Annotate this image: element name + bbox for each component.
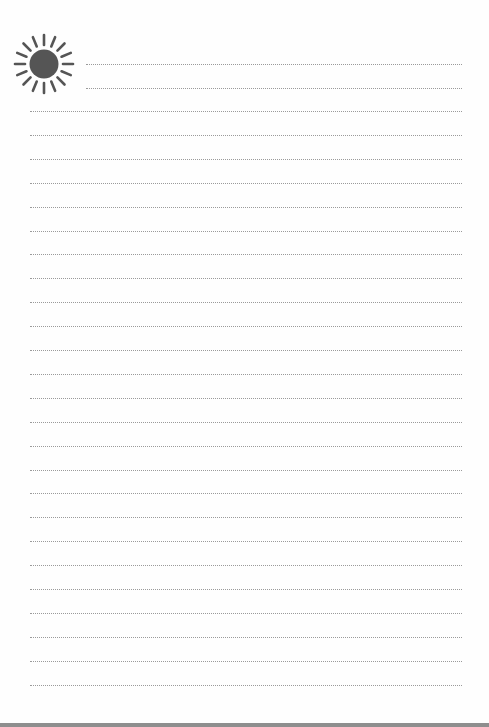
sun-ray: [57, 77, 64, 84]
ruled-line: [30, 207, 462, 208]
ruled-line: [30, 517, 462, 518]
page-bottom-edge: [0, 723, 489, 727]
ruled-line: [86, 88, 462, 89]
ruled-line: [30, 302, 462, 303]
ruled-line: [30, 613, 462, 614]
sun-ray: [17, 53, 26, 57]
ruled-line: [30, 565, 462, 566]
ruled-line: [30, 637, 462, 638]
sun-ray: [57, 43, 64, 50]
ruled-line: [30, 398, 462, 399]
ruled-line: [30, 422, 462, 423]
ruled-line: [30, 231, 462, 232]
ruled-line: [30, 470, 462, 471]
sun-ray: [62, 53, 71, 57]
ruled-line: [30, 661, 462, 662]
sun-icon: [13, 33, 75, 95]
sun-ray: [51, 37, 55, 46]
ruled-line: [30, 254, 462, 255]
ruled-line: [30, 350, 462, 351]
ruled-line: [30, 374, 462, 375]
ruled-line: [86, 64, 462, 65]
ruled-line: [30, 111, 462, 112]
ruled-line: [30, 446, 462, 447]
ruled-line: [30, 135, 462, 136]
ruled-line: [30, 493, 462, 494]
sun-ray: [23, 77, 30, 84]
sun-ray: [33, 82, 37, 91]
ruled-line: [30, 278, 462, 279]
sun-ray: [17, 71, 26, 75]
sun-ray: [23, 43, 30, 50]
sun-ray: [62, 71, 71, 75]
ruled-line: [30, 326, 462, 327]
ruled-line: [30, 541, 462, 542]
ruled-line: [30, 589, 462, 590]
ruled-line: [30, 159, 462, 160]
ruled-line: [30, 685, 462, 686]
notepaper-page: [0, 0, 489, 724]
sun-ray: [33, 37, 37, 46]
sun-ray: [51, 82, 55, 91]
ruled-line: [30, 183, 462, 184]
